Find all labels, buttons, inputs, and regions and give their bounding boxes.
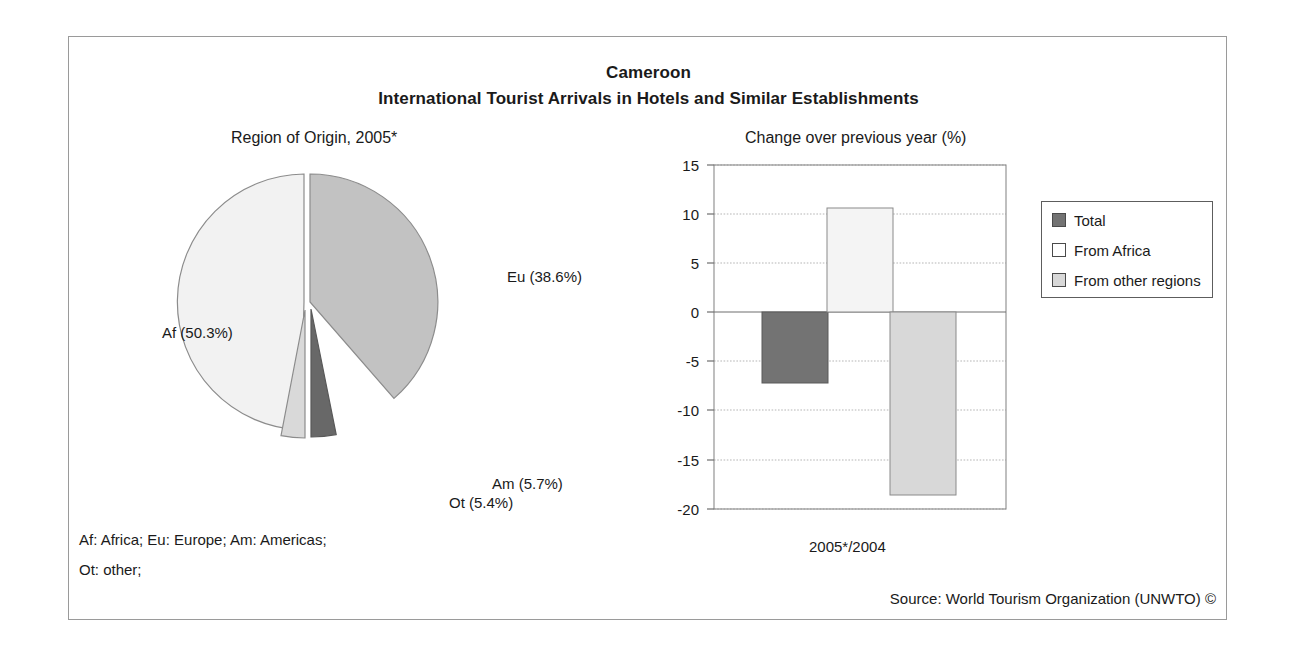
bar-total [762, 312, 828, 383]
bar-from-africa [827, 208, 893, 312]
legend-item-from-other-regions[interactable]: From other regions [1052, 269, 1201, 291]
bar-chart-subtitle: Change over previous year (%) [745, 129, 966, 147]
source-attribution: Source: World Tourism Organization (UNWT… [890, 590, 1216, 607]
legend-label-total: Total [1074, 212, 1106, 229]
bar-chart-legend: Total From Africa From other regions [1041, 201, 1213, 298]
ytick-label-m15: -15 [677, 452, 699, 469]
legend-swatch-from-other-regions [1052, 273, 1066, 287]
footnote-other-key: Ot: other; [79, 561, 142, 578]
footnote-region-key: Af: Africa; Eu: Europe; Am: Americas; [79, 531, 327, 548]
legend-label-from-africa: From Africa [1074, 242, 1151, 259]
ytick-label-10: 10 [682, 206, 699, 223]
ytick-label-m10: -10 [677, 402, 699, 419]
bar-from-other-regions [890, 312, 956, 495]
legend-label-from-other-regions: From other regions [1074, 272, 1201, 289]
legend-item-total[interactable]: Total [1052, 209, 1106, 231]
legend-swatch-total [1052, 213, 1066, 227]
bar-chart-graphic: 15 10 5 0 -5 -10 -15 -20 [629, 157, 1029, 532]
ytick-label-5: 5 [691, 255, 699, 272]
ytick-label-m5: -5 [686, 353, 699, 370]
bar-chart-yaxis-ticks [707, 165, 714, 509]
bar-chart-xaxis-label: 2005*/2004 [809, 538, 886, 555]
legend-item-from-africa[interactable]: From Africa [1052, 239, 1151, 261]
figure-frame: Cameroon International Tourist Arrivals … [68, 36, 1227, 620]
ytick-label-m20: -20 [677, 501, 699, 518]
ytick-label-15: 15 [682, 157, 699, 174]
legend-swatch-from-africa [1052, 243, 1066, 257]
ytick-label-0: 0 [691, 304, 699, 321]
